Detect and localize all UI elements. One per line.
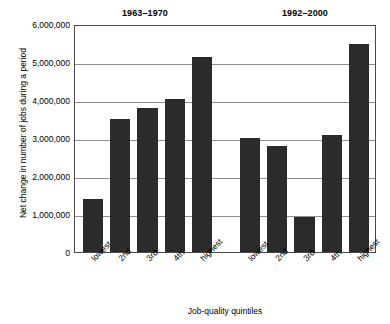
y-axis-tick-labels: 01,000,0002,000,0003,000,0004,000,0005,0… (0, 25, 70, 253)
bar-1992-2000-3rd (294, 217, 314, 252)
x-axis-title: Job-quality quintiles (74, 306, 376, 316)
y-axis-tick-label: 6,000,000 (4, 21, 70, 30)
bar-1963-1970-highest (192, 57, 212, 252)
bar-chart-figure: 1963–1970 1992–2000 Net change in number… (0, 0, 390, 324)
bar-1963-1970-2nd (110, 119, 130, 252)
gridline (75, 64, 375, 65)
bar-1963-1970-4th (165, 99, 185, 252)
y-axis-tick-label: 0 (4, 249, 70, 258)
group-title-1992-2000: 1992–2000 (234, 8, 376, 18)
plot-area (74, 25, 376, 253)
bar-1992-2000-2nd (267, 146, 287, 252)
x-axis-tick-labels: lowest2nd3rd4thhighestlowest2nd3rd4thhig… (74, 253, 376, 301)
bar-1992-2000-highest (349, 44, 369, 252)
gridline (75, 102, 375, 103)
bar-1963-1970-3rd (137, 108, 157, 252)
y-axis-tick-label: 2,000,000 (4, 173, 70, 182)
bar-1992-2000-4th (322, 135, 342, 252)
y-axis-tick-label: 3,000,000 (4, 135, 70, 144)
y-axis-tick-label: 4,000,000 (4, 97, 70, 106)
group-title-1963-1970: 1963–1970 (74, 8, 216, 18)
bar-1992-2000-lowest (240, 138, 260, 252)
y-axis-tick-label: 5,000,000 (4, 59, 70, 68)
y-axis-tick-label: 1,000,000 (4, 211, 70, 220)
